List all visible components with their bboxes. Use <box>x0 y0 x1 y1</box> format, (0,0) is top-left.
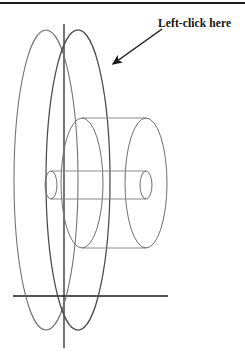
axis-lines <box>13 24 168 348</box>
figure-page: Left-click here <box>0 0 245 352</box>
annotation-arrow-group <box>113 29 162 64</box>
pointer-arrow <box>113 29 162 64</box>
medium-hub-front-ellipse <box>125 118 167 248</box>
large-disc-group <box>14 30 110 330</box>
shaft-front-ellipse <box>140 171 152 199</box>
shaft-back-ellipse <box>45 171 57 199</box>
technical-drawing-canvas <box>0 0 245 352</box>
medium-hub-back-ellipse <box>61 118 103 248</box>
left-click-here-label: Left-click here <box>158 17 231 30</box>
